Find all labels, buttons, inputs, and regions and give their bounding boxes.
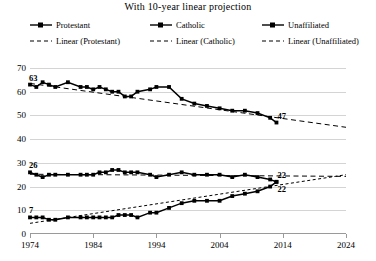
- x-axis-tick-mark: [30, 234, 31, 238]
- data-point-marker: [66, 80, 70, 84]
- data-label-protestant-63: 63: [29, 74, 38, 83]
- data-point-marker: [205, 199, 209, 203]
- data-point-marker: [91, 216, 95, 220]
- data-point-marker: [218, 199, 222, 203]
- legend-label: Catholic: [176, 20, 205, 30]
- data-point-marker: [243, 192, 247, 196]
- chart-legend: ProtestantCatholicUnaffiliatedLinear (Pr…: [0, 23, 376, 55]
- data-label-catholic-26: 26: [29, 161, 38, 170]
- data-point-marker: [180, 170, 184, 174]
- data-label-catholic-22: 22: [277, 171, 286, 180]
- data-point-marker: [41, 175, 45, 179]
- data-point-marker: [110, 90, 114, 94]
- data-point-marker: [129, 213, 133, 217]
- y-axis-tick-label: 10: [17, 205, 26, 215]
- data-point-marker: [180, 201, 184, 205]
- x-axis-tick-mark: [93, 234, 94, 238]
- data-point-marker: [136, 216, 140, 220]
- line-marker-icon: [150, 21, 172, 29]
- dashed-line-icon: [262, 37, 284, 45]
- series-line-linear-protestant: [30, 83, 346, 127]
- x-axis-tick-label: 1974: [21, 240, 39, 250]
- data-point-marker: [117, 90, 121, 94]
- x-axis-tick-label: 2004: [211, 240, 229, 250]
- data-point-marker: [167, 206, 171, 210]
- x-axis-tick-mark: [283, 234, 284, 238]
- data-point-marker: [98, 216, 102, 220]
- y-axis-tick-label: 50: [17, 110, 26, 120]
- chart-container: With 10-year linear projection Protestan…: [0, 0, 376, 261]
- data-point-marker: [117, 213, 121, 217]
- x-axis-tick-mark: [156, 234, 157, 238]
- y-axis-tick-label: 0: [22, 229, 27, 239]
- data-point-marker: [79, 85, 83, 89]
- dashed-line-icon: [30, 37, 52, 45]
- data-point-marker: [123, 170, 127, 174]
- data-point-marker: [218, 173, 222, 177]
- data-point-marker: [192, 199, 196, 203]
- data-point-marker: [256, 175, 260, 179]
- data-label-protestant-47: 47: [277, 112, 286, 121]
- data-point-marker: [104, 170, 108, 174]
- data-point-marker: [41, 80, 45, 84]
- line-marker-icon: [30, 21, 52, 29]
- x-axis-tick-label: 1984: [84, 240, 102, 250]
- data-point-marker: [136, 170, 140, 174]
- y-axis-tick-label: 20: [17, 182, 26, 192]
- y-axis-tick-label: 60: [17, 87, 26, 97]
- x-axis-line: [30, 233, 346, 234]
- data-point-marker: [34, 216, 38, 220]
- data-label-unaffiliated-7: 7: [29, 206, 33, 215]
- data-point-marker: [98, 170, 102, 174]
- series-line-unaffiliated: [30, 182, 276, 220]
- data-point-marker: [155, 211, 159, 215]
- data-point-marker: [41, 216, 45, 220]
- chart-title: With 10-year linear projection: [0, 1, 376, 12]
- y-axis-tick-label: 40: [17, 134, 26, 144]
- x-axis-tick-label: 2024: [337, 240, 355, 250]
- data-point-marker: [243, 109, 247, 113]
- data-point-marker: [155, 175, 159, 179]
- data-point-marker: [104, 216, 108, 220]
- data-point-marker: [192, 102, 196, 106]
- data-point-marker: [230, 175, 234, 179]
- series-lines: [30, 68, 346, 234]
- data-point-marker: [256, 189, 260, 193]
- data-label-unaffiliated-22: 22: [277, 185, 286, 194]
- data-point-marker: [98, 85, 102, 89]
- data-point-marker: [256, 111, 260, 115]
- data-point-marker: [91, 87, 95, 91]
- data-point-marker: [110, 216, 114, 220]
- data-point-marker: [85, 216, 89, 220]
- data-point-marker: [117, 168, 121, 172]
- data-point-marker: [275, 121, 279, 125]
- data-point-marker: [85, 85, 89, 89]
- data-point-marker: [148, 87, 152, 91]
- legend-label: Linear (Catholic): [176, 36, 235, 46]
- legend-label: Protestant: [56, 20, 90, 30]
- x-axis-tick-mark: [220, 234, 221, 238]
- data-point-marker: [268, 178, 272, 182]
- data-point-marker: [230, 194, 234, 198]
- data-point-marker: [129, 170, 133, 174]
- data-point-marker: [104, 87, 108, 91]
- data-point-marker: [110, 168, 114, 172]
- data-point-marker: [148, 211, 152, 215]
- data-point-marker: [34, 85, 38, 89]
- data-point-marker: [180, 97, 184, 101]
- data-point-marker: [28, 216, 32, 220]
- x-axis-tick-mark: [346, 234, 347, 238]
- data-point-marker: [192, 173, 196, 177]
- data-point-marker: [123, 213, 127, 217]
- legend-label: Unaffiliated: [288, 20, 329, 30]
- data-point-marker: [155, 85, 159, 89]
- y-axis-tick-label: 30: [17, 158, 26, 168]
- x-axis-tick-label: 1994: [147, 240, 165, 250]
- y-axis-tick-label: 70: [17, 63, 26, 73]
- data-point-marker: [205, 173, 209, 177]
- data-point-marker: [28, 170, 32, 174]
- dashed-line-icon: [150, 37, 172, 45]
- line-marker-icon: [262, 21, 284, 29]
- data-point-marker: [205, 104, 209, 108]
- legend-label: Linear (Protestant): [56, 36, 120, 46]
